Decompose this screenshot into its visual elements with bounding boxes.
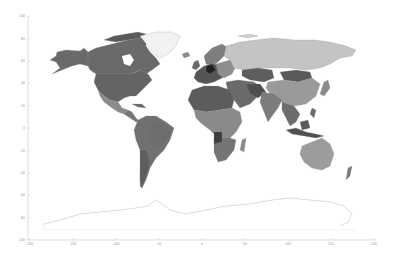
y-tick-label: 80 — [21, 37, 25, 41]
y-tick-label: 20 — [21, 104, 25, 108]
region-north-africa — [188, 86, 234, 112]
region-russia — [224, 38, 356, 70]
x-ticks: -200-150-100-50050100150200 — [26, 238, 376, 246]
region-central-america — [124, 110, 140, 122]
x-tick-label: 100 — [285, 242, 291, 246]
region-alaska — [50, 48, 88, 74]
y-tick-label: 100 — [19, 14, 25, 18]
x-tick-label: 50 — [243, 242, 247, 246]
y-tick-label: -40 — [20, 171, 25, 175]
region-novaya-zemlya — [238, 34, 258, 38]
region-iceland — [182, 52, 190, 58]
region-madagascar — [240, 138, 246, 152]
y-tick-label: 0 — [23, 126, 25, 130]
y-tick-label: -80 — [20, 216, 25, 220]
y-tick-label: -20 — [20, 149, 25, 153]
x-tick-label: 150 — [328, 242, 334, 246]
region-uk — [192, 60, 200, 70]
world-map-figure: 100806040200-20-40-60-80-100 -200-150-10… — [0, 0, 397, 256]
x-tick-label: 200 — [371, 242, 377, 246]
y-tick-label: -100 — [18, 238, 25, 242]
region-kazakhstan — [242, 68, 274, 82]
region-borneo — [300, 120, 310, 130]
region-southeast-asia — [282, 102, 300, 126]
map-land — [44, 32, 356, 226]
x-tick-label: -100 — [112, 242, 119, 246]
y-tick-label: -60 — [20, 193, 25, 197]
region-indonesia — [286, 128, 324, 138]
region-new-zealand — [346, 166, 352, 180]
region-japan — [320, 80, 330, 96]
region-angola — [214, 132, 222, 144]
y-tick-label: 60 — [21, 59, 25, 63]
region-antarctica — [44, 198, 352, 226]
x-tick-label: -150 — [69, 242, 76, 246]
x-tick-label: -200 — [26, 242, 33, 246]
region-caribbean — [132, 104, 146, 108]
x-tick-label: 0 — [201, 242, 203, 246]
y-tick-label: 40 — [21, 81, 25, 85]
region-australia — [300, 138, 334, 170]
region-philippines — [310, 108, 316, 118]
x-tick-label: -50 — [156, 242, 161, 246]
